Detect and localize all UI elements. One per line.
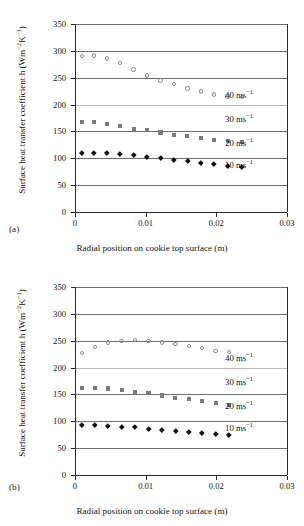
y-tick-mark — [71, 421, 75, 422]
data-point — [158, 78, 162, 82]
x-tick-mark — [287, 476, 288, 480]
data-point — [159, 427, 164, 432]
y-tick-label: 200 — [40, 100, 66, 110]
data-point — [92, 53, 96, 57]
gridline — [75, 287, 287, 288]
x-axis-line — [75, 475, 287, 476]
gridline — [75, 105, 287, 106]
series-label-exponent: −1 — [246, 421, 253, 428]
data-point — [199, 89, 203, 93]
series-label-exponent: −1 — [246, 375, 253, 382]
series-annotation-20: 20 ms−1 — [225, 399, 253, 411]
y-axis-label-text-b: Surface heat transfer coefficient h (Wm — [17, 313, 27, 457]
x-tick-mark — [75, 213, 76, 217]
y-tick-label: 100 — [40, 153, 66, 163]
series-label-exponent: −1 — [246, 399, 253, 406]
data-point — [212, 92, 216, 96]
series-label-text: 20 ms — [225, 400, 246, 410]
y-tick-mark — [71, 78, 75, 79]
series-label-text: 10 ms — [225, 423, 246, 433]
x-tick-label: 0.02 — [196, 218, 236, 228]
y-axis-line — [75, 287, 76, 475]
x-tick-label: 0.01 — [126, 481, 166, 491]
series-label-exponent: −1 — [246, 158, 253, 165]
data-point — [131, 67, 135, 71]
x-tick-mark — [75, 476, 76, 480]
data-point — [213, 349, 217, 353]
data-point — [200, 431, 205, 436]
y-axis-line — [75, 24, 76, 212]
data-point — [146, 426, 151, 431]
series-label-text: 40 ms — [225, 90, 246, 100]
y-tick-mark — [71, 24, 75, 25]
y-tick-mark — [71, 341, 75, 342]
data-point — [106, 423, 111, 428]
data-point — [80, 150, 85, 155]
gridline — [75, 394, 287, 395]
series-label-exponent: −1 — [246, 88, 253, 95]
data-point — [158, 156, 163, 161]
data-point — [173, 396, 177, 400]
plot-right-edge — [287, 287, 288, 475]
data-point — [120, 388, 124, 392]
y-axis-label-b: Surface heat transfer coefficient h (Wm−… — [15, 288, 27, 458]
gridline — [75, 448, 287, 449]
data-point — [173, 428, 178, 433]
x-tick-label: 0.03 — [267, 481, 304, 491]
data-point — [118, 124, 122, 128]
y-tick-mark — [71, 368, 75, 369]
x-tick-mark — [287, 213, 288, 217]
y-axis-end-a: ) — [17, 26, 27, 29]
data-point — [172, 133, 176, 137]
y-tick-mark — [71, 131, 75, 132]
series-annotation-40: 40 ms−1 — [225, 351, 253, 363]
data-point — [92, 422, 97, 427]
data-point — [213, 431, 218, 436]
data-point — [92, 150, 97, 155]
data-point — [185, 86, 189, 90]
data-point — [198, 160, 203, 165]
data-point — [187, 397, 191, 401]
y-tick-mark — [71, 51, 75, 52]
y-axis-exp2-b: −1 — [15, 292, 22, 299]
series-annotation-10: 10 ms−1 — [225, 158, 253, 170]
gridline — [75, 421, 287, 422]
gridline — [75, 24, 287, 25]
x-axis-line — [75, 212, 287, 213]
series-annotation-10: 10 ms−1 — [225, 421, 253, 433]
data-point — [104, 150, 109, 155]
data-point — [80, 351, 84, 355]
x-tick-mark — [216, 476, 217, 480]
data-point — [131, 153, 136, 158]
y-tick-label: 300 — [40, 309, 66, 319]
y-tick-label: 300 — [40, 46, 66, 56]
data-point — [214, 401, 218, 405]
gridline — [75, 51, 287, 52]
series-label-exponent: −1 — [246, 136, 253, 143]
data-point — [185, 158, 190, 163]
gridline — [75, 314, 287, 315]
series-label-text: 10 ms — [225, 160, 246, 170]
y-axis-mid-b: K — [17, 299, 27, 306]
data-point — [187, 344, 191, 348]
data-point — [118, 61, 122, 65]
series-annotation-40: 40 ms−1 — [225, 88, 253, 100]
x-axis-label-b: Radial position on cookie top surface (m… — [0, 506, 304, 516]
y-tick-mark — [71, 448, 75, 449]
x-tick-label: 0 — [55, 218, 95, 228]
data-point — [185, 134, 189, 138]
y-tick-mark — [71, 185, 75, 186]
data-point — [200, 346, 204, 350]
x-tick-mark — [146, 476, 147, 480]
y-axis-label-text-a: Surface heat transfer coefficient h (Wm — [17, 50, 27, 194]
y-tick-label: 350 — [40, 282, 66, 292]
y-axis-end-b: ) — [17, 289, 27, 292]
data-point — [158, 130, 162, 134]
data-point — [105, 122, 109, 126]
data-point — [118, 151, 123, 156]
y-axis-exp2-a: −1 — [15, 29, 22, 36]
series-label-text: 20 ms — [225, 137, 246, 147]
y-tick-label: 250 — [40, 73, 66, 83]
data-point — [80, 386, 84, 390]
chart-panel-b: (b) Surface heat transfer coefficient h … — [0, 263, 304, 526]
